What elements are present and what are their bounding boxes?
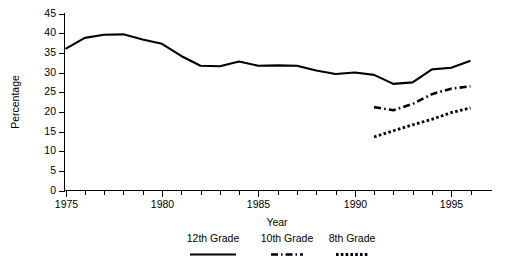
x-axis-ticks xyxy=(67,191,472,197)
line-chart: Percentage Year 051015202530354045 19751… xyxy=(0,0,517,271)
x-tick-label: 1995 xyxy=(440,198,464,210)
series-line-8th-grade xyxy=(374,108,470,137)
legend-label-10th-grade: 10th Grade xyxy=(261,232,314,244)
chart-legend: 12th Grade10th Grade8th Grade xyxy=(187,232,376,255)
y-tick-label: 20 xyxy=(44,105,56,117)
y-tick-label: 45 xyxy=(44,7,56,19)
y-tick-label: 15 xyxy=(44,125,56,137)
x-tick-label: 1980 xyxy=(151,198,175,210)
y-tick-label: 40 xyxy=(44,26,56,38)
y-axis-title: Percentage xyxy=(9,75,21,129)
chart-container: Percentage Year 051015202530354045 19751… xyxy=(0,0,517,271)
legend-label-12th-grade: 12th Grade xyxy=(187,232,240,244)
y-tick-label: 25 xyxy=(44,85,56,97)
x-tick-label: 1975 xyxy=(55,198,79,210)
x-tick-label: 1990 xyxy=(344,198,368,210)
series-line-10th-grade xyxy=(374,86,470,110)
y-tick-label: 5 xyxy=(50,164,56,176)
y-tick-label: 30 xyxy=(44,66,56,78)
x-axis-tick-labels: 19751980198519901995 xyxy=(55,198,464,210)
y-tick-label: 10 xyxy=(44,144,56,156)
series-line-12th-grade xyxy=(66,34,471,84)
series-layer xyxy=(66,34,471,137)
y-tick-label: 0 xyxy=(50,184,56,196)
y-axis-tick-labels: 051015202530354045 xyxy=(44,7,56,196)
x-axis-title: Year xyxy=(266,216,288,228)
y-tick-label: 35 xyxy=(44,46,56,58)
x-tick-label: 1985 xyxy=(247,198,271,210)
y-axis-ticks xyxy=(59,15,65,192)
legend-label-8th-grade: 8th Grade xyxy=(329,232,376,244)
